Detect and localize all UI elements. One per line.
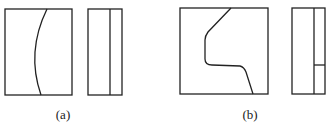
diagram-canvas: (a) (b) xyxy=(0,0,330,127)
figure-b-label: (b) xyxy=(242,107,257,122)
figure-a-label: (a) xyxy=(56,107,70,122)
figure-b xyxy=(180,8,325,94)
figure-a-front-view xyxy=(5,9,72,95)
figure-b-side-view xyxy=(292,8,325,94)
figure-b-curve xyxy=(205,8,253,94)
figure-b-front-view xyxy=(180,8,268,94)
figure-a-side-view xyxy=(88,9,122,95)
figure-a xyxy=(5,9,122,95)
figure-a-curve xyxy=(35,9,47,95)
